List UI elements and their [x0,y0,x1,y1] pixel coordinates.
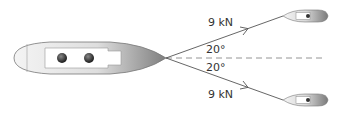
lower-angle-label: 20° [206,61,226,74]
porthole-icon [84,53,94,63]
lower-force-label: 9 kN [208,88,233,101]
upper-force-label: 9 kN [208,16,233,29]
upper-angle-label: 20° [206,43,226,56]
tow-diagram [0,0,339,116]
lower-tugboat [283,94,328,106]
porthole-icon [57,53,67,63]
towed-ship [14,42,166,74]
upper-tugboat [283,10,328,22]
